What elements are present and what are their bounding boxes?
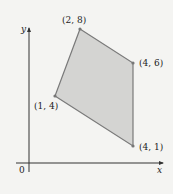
shaded-region bbox=[55, 29, 133, 146]
vertex-point bbox=[78, 27, 81, 30]
vertex-label: (4, 6) bbox=[139, 58, 163, 68]
y-axis-arrow-icon bbox=[27, 27, 31, 32]
y-axis-label: y bbox=[20, 24, 27, 34]
quadrilateral-diagram: (2, 8) (4, 6) (4, 1) (1, 4) 0 x y bbox=[0, 0, 173, 194]
vertex-label: (2, 8) bbox=[62, 15, 86, 25]
vertex-label: (4, 1) bbox=[139, 142, 163, 152]
vertex-point bbox=[131, 144, 134, 147]
vertex-label: (1, 4) bbox=[34, 101, 58, 111]
x-axis-label: x bbox=[157, 165, 162, 175]
origin-label: 0 bbox=[19, 165, 25, 175]
vertex-point bbox=[53, 94, 56, 97]
vertex-point bbox=[131, 61, 134, 64]
